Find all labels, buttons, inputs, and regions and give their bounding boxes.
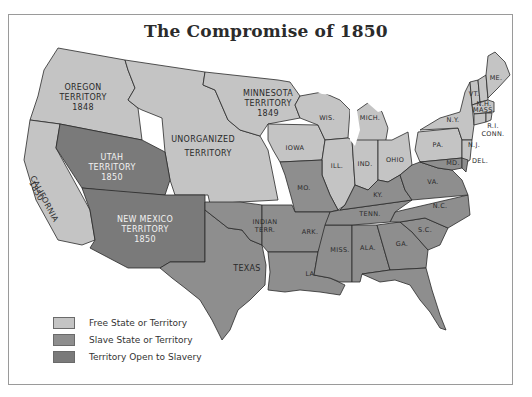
svg-text:N.C.: N.C. — [433, 202, 448, 210]
svg-text:CONN.: CONN. — [482, 130, 505, 138]
region-florida — [362, 268, 446, 330]
svg-text:NEW MEXICO: NEW MEXICO — [117, 215, 173, 224]
svg-text:PA.: PA. — [433, 141, 444, 149]
svg-text:TERRITORY: TERRITORY — [120, 225, 168, 234]
svg-text:DEL.: DEL. — [472, 157, 488, 165]
region-rhode-island — [486, 113, 492, 122]
region-connecticut — [474, 113, 486, 125]
svg-text:1850: 1850 — [101, 173, 123, 182]
svg-text:ARK.: ARK. — [302, 228, 319, 236]
svg-text:VA.: VA. — [427, 178, 438, 186]
svg-text:TERRITORY: TERRITORY — [183, 149, 231, 158]
svg-text:MD.: MD. — [446, 159, 460, 167]
map-legend: Free State or Territory Slave State or T… — [53, 314, 202, 365]
legend-item-open: Territory Open to Slavery — [53, 348, 202, 365]
svg-text:N.J.: N.J. — [468, 141, 480, 149]
svg-text:MISS.: MISS. — [330, 246, 349, 254]
svg-text:VT.: VT. — [469, 90, 480, 98]
legend-item-free: Free State or Territory — [53, 314, 202, 331]
legend-label: Free State or Territory — [89, 318, 187, 328]
svg-text:R.I.: R.I. — [487, 122, 499, 130]
svg-text:KY.: KY. — [373, 191, 383, 199]
legend-item-slave: Slave State or Territory — [53, 331, 202, 348]
swatch-free — [53, 317, 75, 329]
svg-text:TERRITORY: TERRITORY — [87, 163, 135, 172]
svg-text:TERRITORY: TERRITORY — [243, 99, 291, 108]
svg-text:IND.: IND. — [357, 160, 372, 168]
svg-text:1849: 1849 — [257, 109, 279, 118]
svg-text:ILL.: ILL. — [331, 162, 343, 170]
svg-text:INDIAN: INDIAN — [253, 218, 278, 226]
svg-text:LA.: LA. — [305, 270, 316, 278]
svg-text:1850: 1850 — [134, 235, 156, 244]
svg-text:TEXAS: TEXAS — [232, 264, 260, 273]
swatch-open — [53, 351, 75, 363]
svg-text:UTAH: UTAH — [101, 153, 124, 162]
svg-text:UNORGANIZED: UNORGANIZED — [171, 135, 235, 144]
svg-text:GA.: GA. — [396, 240, 408, 248]
svg-text:1848: 1848 — [72, 103, 94, 112]
legend-label: Slave State or Territory — [89, 335, 193, 345]
svg-text:N.Y.: N.Y. — [447, 116, 460, 124]
svg-text:WIS.: WIS. — [319, 114, 335, 122]
legend-label: Territory Open to Slavery — [89, 352, 202, 362]
svg-text:ME.: ME. — [490, 74, 503, 82]
svg-text:MICH.: MICH. — [360, 114, 380, 122]
svg-text:MO.: MO. — [297, 184, 310, 192]
svg-text:MASS.: MASS. — [473, 106, 495, 114]
svg-text:MINNESOTA: MINNESOTA — [243, 89, 293, 98]
svg-text:ALA.: ALA. — [360, 244, 376, 252]
svg-text:IOWA: IOWA — [286, 144, 305, 152]
svg-text:TENN.: TENN. — [358, 210, 380, 218]
svg-text:S.C.: S.C. — [418, 226, 432, 234]
swatch-slave — [53, 334, 75, 346]
region-iowa — [268, 124, 325, 162]
svg-text:OREGON: OREGON — [64, 83, 101, 92]
svg-text:TERRITORY: TERRITORY — [58, 93, 106, 102]
svg-text:TERR.: TERR. — [254, 226, 275, 234]
svg-text:OHIO: OHIO — [386, 156, 404, 164]
region-delaware — [462, 158, 468, 172]
